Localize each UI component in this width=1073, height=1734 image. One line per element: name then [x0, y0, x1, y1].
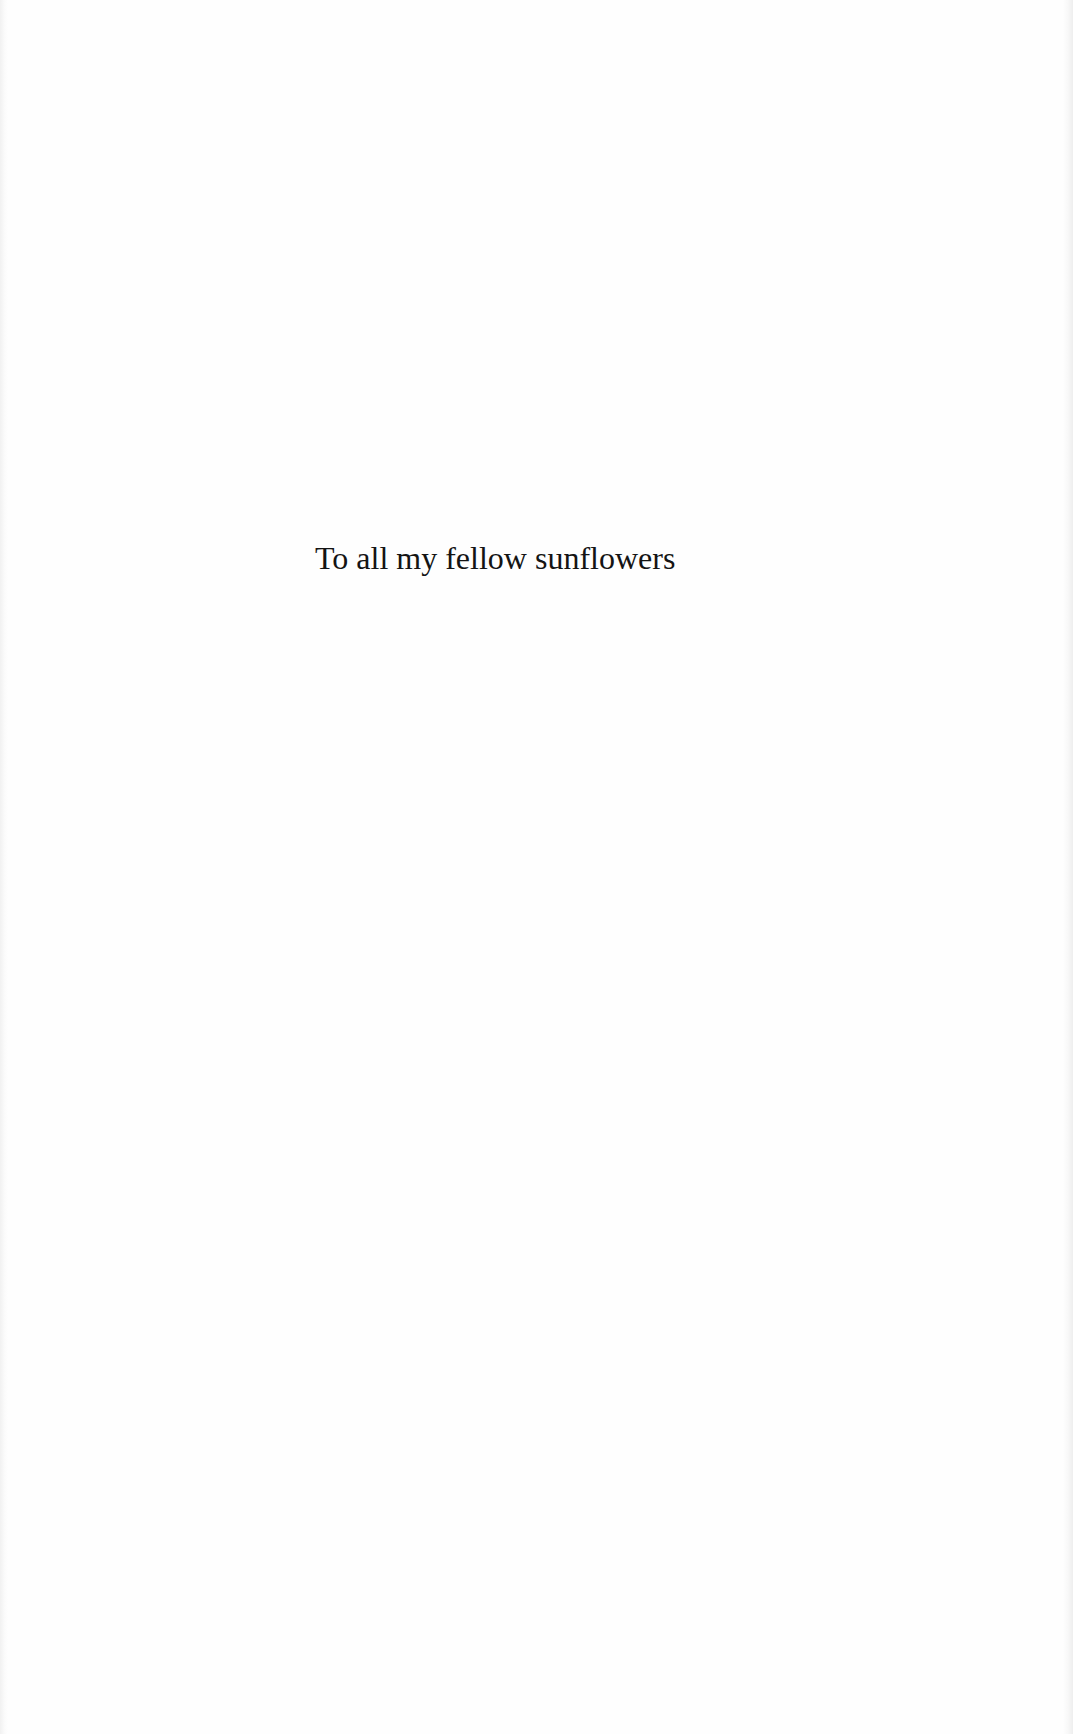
- scan-edge-right: [1063, 0, 1073, 1734]
- dedication-text: To all my fellow sunflowers: [315, 538, 675, 578]
- scan-edge-left: [0, 0, 8, 1734]
- book-page: To all my fellow sunflowers: [0, 0, 1073, 1734]
